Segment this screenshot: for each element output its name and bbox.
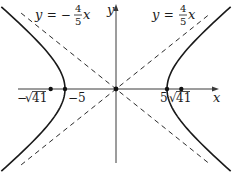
right-asymptote-y: y xyxy=(151,7,160,22)
left-asymptote-x: x xyxy=(83,7,91,22)
hyperbola-figure: y = − 4 5 x y = 4 5 x y x − √ 41 −5 5 xyxy=(0,0,235,176)
left-asymptote-label: y = − 4 5 x xyxy=(34,3,91,27)
right-asymptote-eq: = xyxy=(160,8,178,22)
right-asymptote-x: x xyxy=(188,7,196,22)
y-axis-label: y xyxy=(106,2,115,17)
pos-focus-radicand: 41 xyxy=(176,91,191,105)
hyperbola-plot: y = − 4 5 x y = 4 5 x y x − √ 41 −5 5 xyxy=(0,0,235,176)
x-axis-label: x xyxy=(213,90,221,105)
right-asymptote-denominator: 5 xyxy=(180,16,186,27)
focus-point-negative xyxy=(48,87,52,91)
pos-focus-label: √ 41 xyxy=(169,91,191,105)
left-asymptote-y: y xyxy=(34,7,43,22)
center-point xyxy=(114,87,119,92)
left-asymptote-eq: = − xyxy=(43,8,71,22)
pos-vertex-label: 5 xyxy=(160,91,168,105)
neg-vertex-label: −5 xyxy=(68,91,86,105)
vertex-point-negative xyxy=(63,87,67,91)
right-asymptote-numerator: 4 xyxy=(180,3,186,14)
left-asymptote-numerator: 4 xyxy=(75,3,81,14)
right-asymptote-label: y = 4 5 x xyxy=(151,3,196,27)
neg-focus-radicand: 41 xyxy=(32,91,47,105)
neg-focus-label: − √ 41 xyxy=(17,91,47,105)
left-asymptote-denominator: 5 xyxy=(75,16,81,27)
